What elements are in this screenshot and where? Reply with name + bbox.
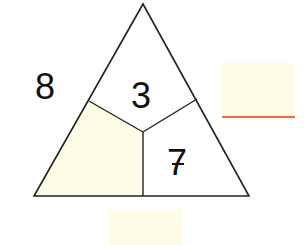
- divider-right: [143, 99, 197, 132]
- left-side-label: 8: [35, 69, 55, 105]
- seven-crossbar: [172, 163, 184, 165]
- answer-line-right: [222, 116, 295, 118]
- answer-box-bottom[interactable]: [108, 209, 182, 245]
- answer-box-right[interactable]: [222, 63, 295, 117]
- section-top-value: 3: [131, 78, 151, 114]
- section-bottom-left[interactable]: [34, 101, 143, 196]
- number-triangle-diagram: 8 3 7: [0, 0, 307, 245]
